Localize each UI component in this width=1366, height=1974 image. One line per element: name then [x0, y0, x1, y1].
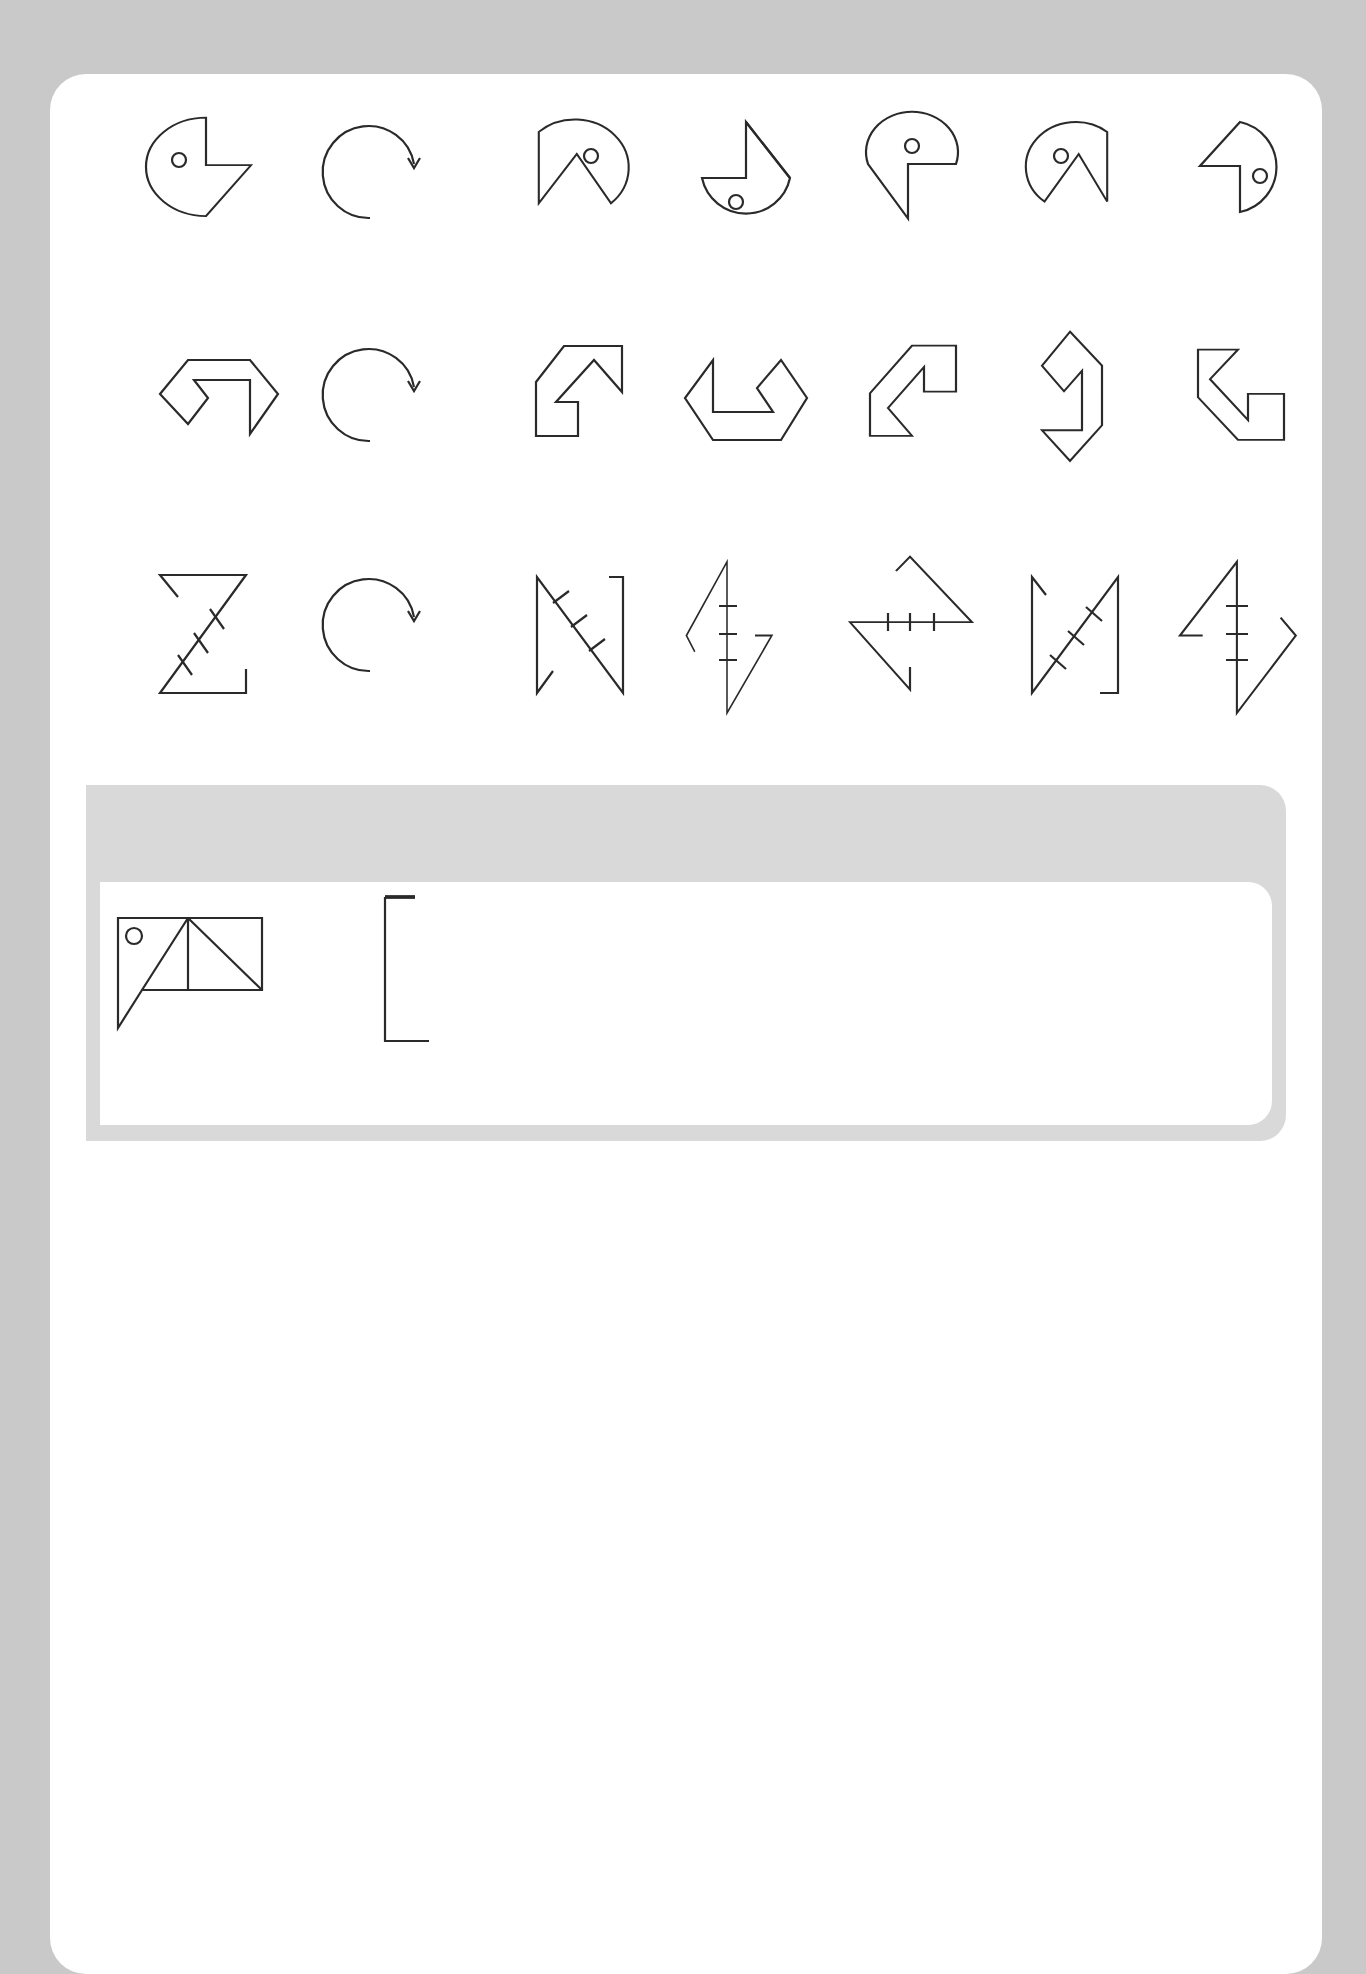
q23-option-d-shape	[1035, 120, 1125, 220]
q24-option-d-shape	[1040, 330, 1120, 470]
example-option-b-shape	[383, 895, 493, 1050]
instruction-box	[86, 785, 1286, 1141]
q23-original-shape	[155, 118, 255, 218]
q25-option-d-shape	[1030, 575, 1122, 700]
q23-option-e-shape	[1196, 120, 1296, 220]
q23-option-a-shape	[535, 120, 625, 220]
q23-option-b-shape	[698, 120, 798, 220]
example-option-a-shape	[116, 916, 266, 1046]
q25-rotation-arrow-icon	[322, 575, 422, 675]
q23-option-c-shape	[864, 120, 964, 220]
q23-rotation-arrow-icon	[322, 122, 422, 222]
q24-rotation-arrow-icon	[322, 345, 422, 445]
q25-original-shape	[158, 573, 253, 698]
q25-option-c-shape	[848, 555, 983, 690]
example-panel	[100, 882, 1272, 1125]
q25-option-e-shape	[1178, 560, 1318, 730]
q25-option-a-shape	[535, 575, 627, 700]
q24-option-c-shape	[868, 344, 960, 444]
q25-option-b-shape	[685, 560, 777, 730]
q24-original-shape	[158, 358, 283, 448]
q24-option-b-shape	[683, 378, 813, 468]
q24-option-e-shape	[1196, 348, 1288, 448]
q24-option-a-shape	[534, 344, 624, 444]
